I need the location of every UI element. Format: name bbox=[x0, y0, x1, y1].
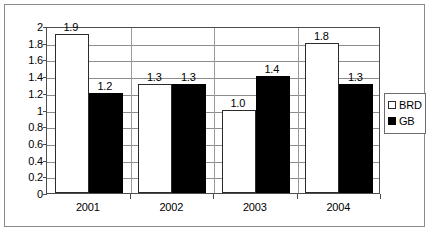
x-axis-tick-mark bbox=[213, 194, 214, 199]
plot-area bbox=[46, 27, 380, 194]
y-axis-tick-label: 0 bbox=[9, 189, 43, 200]
chart-legend: BRD GB bbox=[384, 93, 426, 134]
category-separator bbox=[214, 28, 215, 193]
black-square-swatch-icon bbox=[388, 117, 396, 125]
x-axis-label-2003: 2003 bbox=[213, 201, 297, 213]
bar-gb-2004 bbox=[339, 84, 373, 193]
bar-brd-2004 bbox=[305, 43, 339, 193]
legend-label-gb: GB bbox=[399, 116, 415, 127]
chart-frame: 21.81.61.41.210.80.60.40.20 BRD GB 1.91.… bbox=[4, 4, 425, 227]
y-axis-tick-label: 1 bbox=[9, 106, 43, 117]
legend-item-gb: GB bbox=[388, 113, 425, 129]
bar-gb-2002 bbox=[172, 84, 206, 193]
bar-brd-2001 bbox=[55, 34, 89, 193]
bar-gb-2001 bbox=[89, 93, 123, 193]
legend-label-brd: BRD bbox=[399, 100, 422, 111]
y-axis-tick-label: 0.2 bbox=[9, 172, 43, 183]
y-axis-tick-label: 1.4 bbox=[9, 72, 43, 83]
y-axis-tick-label: 1.8 bbox=[9, 39, 43, 50]
x-axis-label-2001: 2001 bbox=[46, 201, 130, 213]
bar-value-label: 1.3 bbox=[165, 72, 211, 83]
bar-gb-2003 bbox=[256, 76, 290, 193]
bar-value-label: 1.8 bbox=[298, 31, 344, 42]
category-separator bbox=[298, 28, 299, 193]
bar-value-label: 1.2 bbox=[82, 81, 128, 92]
x-axis-label-2002: 2002 bbox=[130, 201, 214, 213]
x-axis-label-2004: 2004 bbox=[297, 201, 381, 213]
y-axis: 21.81.61.41.210.80.60.40.20 bbox=[5, 5, 43, 232]
y-axis-tick-label: 0.6 bbox=[9, 139, 43, 150]
y-axis-tick-label: 1.2 bbox=[9, 89, 43, 100]
bar-value-label: 1.9 bbox=[48, 22, 94, 33]
bar-brd-2002 bbox=[138, 84, 172, 193]
y-axis-tick-label: 1.6 bbox=[9, 55, 43, 66]
bar-value-label: 1.3 bbox=[332, 72, 378, 83]
x-axis-tick-mark bbox=[130, 194, 131, 199]
x-axis-tick-mark bbox=[297, 194, 298, 199]
white-square-swatch-icon bbox=[388, 101, 396, 109]
bar-value-label: 1.4 bbox=[249, 64, 295, 75]
category-separator bbox=[131, 28, 132, 193]
legend-item-brd: BRD bbox=[388, 97, 425, 113]
y-axis-tick-mark bbox=[43, 194, 47, 195]
bar-value-label: 1.0 bbox=[215, 98, 261, 109]
y-axis-tick-label: 0.8 bbox=[9, 122, 43, 133]
y-axis-tick-label: 0.4 bbox=[9, 156, 43, 167]
x-axis-tick-mark bbox=[380, 194, 381, 199]
bar-brd-2003 bbox=[222, 110, 256, 194]
y-axis-tick-label: 2 bbox=[9, 22, 43, 33]
